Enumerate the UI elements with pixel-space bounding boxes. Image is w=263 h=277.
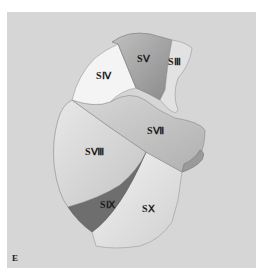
segment-label-s9: SⅨ bbox=[100, 199, 116, 210]
segment-label-s5: SⅤ bbox=[137, 53, 151, 64]
organ-segment-diagram bbox=[0, 0, 263, 277]
segment-label-s7: SⅦ bbox=[147, 125, 165, 136]
segment-label-s4: SⅣ bbox=[96, 70, 112, 81]
panel-letter: E bbox=[12, 253, 18, 263]
segment-label-s3: SⅢ bbox=[168, 56, 182, 67]
segment-label-s10: SⅩ bbox=[142, 203, 156, 214]
segment-label-s8: SⅧ bbox=[85, 146, 105, 157]
